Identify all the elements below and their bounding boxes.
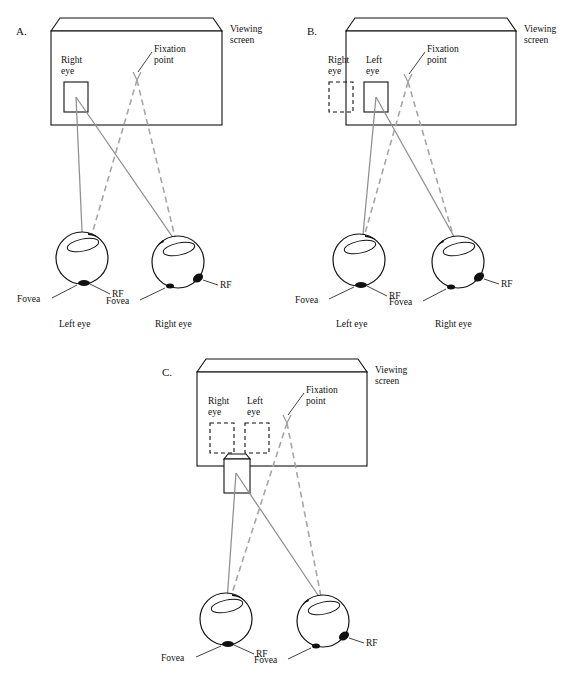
panel-a-label: A. xyxy=(16,25,27,37)
panel-b: B. Viewing screen Right eye Left eye Fix… xyxy=(291,0,582,340)
right-eye-caption: Right eye xyxy=(155,319,192,329)
left-eye-fovea-label: Fovea xyxy=(161,653,185,663)
left-eye-fovea-label: Fovea xyxy=(295,295,319,305)
right-eye-fovea-mark xyxy=(312,644,320,649)
right-eye-rf-leader xyxy=(203,280,218,285)
right-eye-rf-label: RF xyxy=(501,279,513,289)
right-eye-stimulus-label-line2: eye xyxy=(208,407,221,417)
right-eye-fovea-leader xyxy=(423,289,446,301)
left-eye-fovea-mark xyxy=(78,280,90,286)
right-eye-fovea-label: Fovea xyxy=(254,655,278,665)
right-eye-fovea-mark xyxy=(166,284,174,289)
screen-top-bevel xyxy=(346,18,516,31)
left-eye-fovea-leader xyxy=(52,285,77,298)
right-eye-c xyxy=(288,595,364,659)
screen-top-bevel xyxy=(51,18,222,31)
right-eye-fovea-label: Fovea xyxy=(389,297,413,307)
panel-c-diagram: C. Viewing screen Right eye Left eye Fix… xyxy=(146,344,437,674)
fixation-point-label-line2: point xyxy=(306,396,326,406)
left-eye-c xyxy=(196,593,254,657)
fixation-point-label-line2: point xyxy=(427,55,447,65)
right-eye-fovea-label: Fovea xyxy=(106,296,130,306)
fixation-point-label-line1: Fixation xyxy=(154,44,186,54)
left-eye-stimulus-label-line1: Left xyxy=(366,55,382,65)
left-eye-fovea-leader xyxy=(196,646,221,657)
right-eye-stimulus-label-line1: Right xyxy=(61,55,82,65)
right-eye-fovea-mark xyxy=(447,285,455,290)
right-eye-stimulus-label-line2: eye xyxy=(328,66,341,76)
left-eye-stimulus-label-line2: eye xyxy=(247,407,260,417)
right-eye-a xyxy=(140,236,218,300)
right-eye-rf-label: RF xyxy=(220,280,232,290)
viewing-screen-label-line1: Viewing xyxy=(230,24,262,34)
left-eye-rf-leader xyxy=(367,286,387,296)
right-eye-rf-leader xyxy=(484,279,499,284)
left-eye-b xyxy=(329,234,387,299)
screen-top-bevel xyxy=(197,359,367,372)
ray-stimulus-to-right-eye xyxy=(236,473,332,616)
right-eye-rf-label: RF xyxy=(366,638,378,648)
left-eye-a xyxy=(52,232,110,298)
panel-b-diagram: B. Viewing screen Right eye Left eye Fix… xyxy=(291,0,582,340)
block-top-bevel xyxy=(224,454,250,459)
right-eye-rf-leader xyxy=(349,638,364,643)
viewing-screen-label-line2: screen xyxy=(524,35,549,45)
panel-b-label: B. xyxy=(307,25,317,37)
panel-a-diagram: A. Viewing screen Right eye Fixation poi… xyxy=(0,0,291,340)
right-eye-caption: Right eye xyxy=(435,319,472,329)
fixation-point-label-line1: Fixation xyxy=(427,44,459,54)
left-eye-stimulus-label-line2: eye xyxy=(366,66,379,76)
right-eye-stimulus-label-line1: Right xyxy=(208,396,229,406)
left-eye-fovea-mark xyxy=(222,641,234,647)
left-eye-globe xyxy=(56,232,108,284)
left-eye-stimulus-label-line1: Left xyxy=(247,396,263,406)
viewing-screen-label-line1: Viewing xyxy=(524,24,556,34)
right-eye-stimulus-label-line2: eye xyxy=(61,66,74,76)
left-eye-rf-leader xyxy=(234,645,254,654)
panel-c: C. Viewing screen Right eye Left eye Fix… xyxy=(146,344,437,674)
viewing-screen-label-line2: screen xyxy=(230,35,255,45)
viewing-screen-label-line2: screen xyxy=(375,376,400,386)
right-eye-fovea-leader xyxy=(288,648,311,659)
left-eye-globe xyxy=(200,593,252,645)
fixation-point-label-line2: point xyxy=(154,55,174,65)
left-eye-caption: Left eye xyxy=(59,319,90,329)
right-eye-b xyxy=(423,236,499,301)
panel-c-label: C. xyxy=(162,366,172,378)
left-eye-fovea-mark xyxy=(355,282,367,288)
viewing-screen-label-line1: Viewing xyxy=(375,365,407,375)
screen-face xyxy=(197,372,367,466)
left-eye-fovea-leader xyxy=(329,287,354,299)
viewing-screen-c xyxy=(197,359,367,466)
left-eye-fovea-label: Fovea xyxy=(17,294,41,304)
fixation-point-label-line1: Fixation xyxy=(306,385,338,395)
left-eye-rf-leader xyxy=(90,284,110,294)
right-eye-stimulus-label-line1: Right xyxy=(328,55,349,65)
left-eye-caption: Left eye xyxy=(336,319,367,329)
left-eye-globe xyxy=(333,234,385,286)
right-eye-fovea-leader xyxy=(140,288,165,300)
panel-a: A. Viewing screen Right eye Fixation poi… xyxy=(0,0,291,340)
